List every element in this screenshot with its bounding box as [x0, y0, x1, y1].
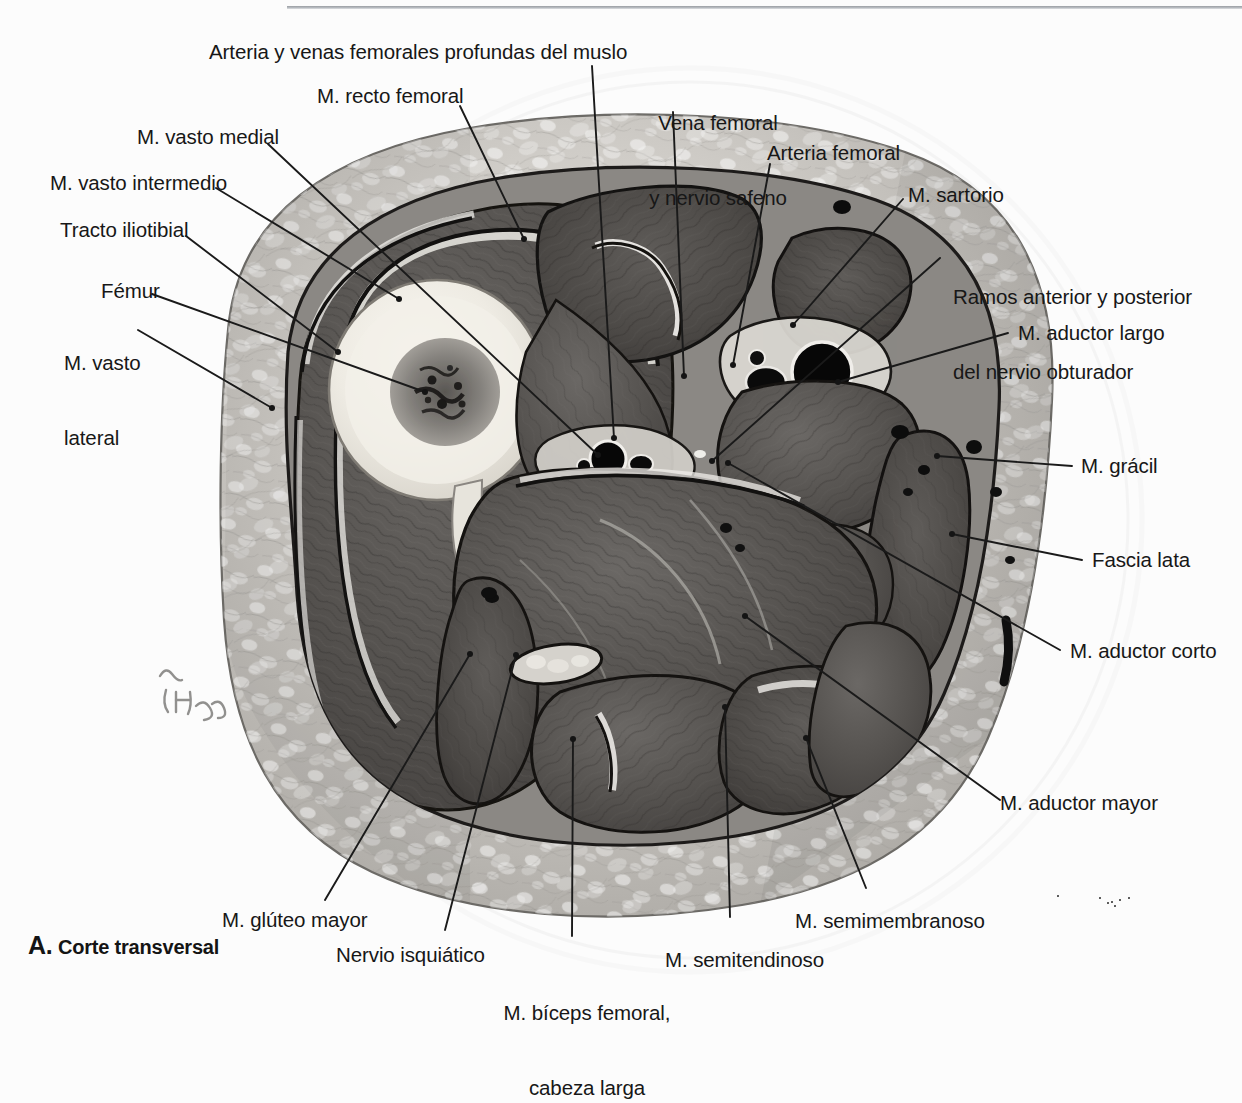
- label-adductor-longus: M. aductor largo: [1018, 320, 1165, 345]
- saphenous-nerve: [749, 350, 765, 366]
- label-biceps-femoris: M. bíceps femoral, cabeza larga: [487, 950, 687, 1103]
- figure-caption-text: Corte transversal: [58, 936, 219, 958]
- label-gluteus-maximus: M. glúteo mayor: [222, 907, 367, 932]
- label-semimembranosus: M. semimembranoso: [795, 908, 985, 933]
- label-femoral-artery: Arteria femoral: [767, 140, 900, 165]
- label-femoral-vein-line2: y nervio safeno: [633, 185, 803, 210]
- label-rectus-femoris: M. recto femoral: [317, 83, 464, 108]
- label-vastus-lateralis-line2: lateral: [64, 425, 141, 450]
- label-obturator-nerve-line2: del nervio obturador: [953, 359, 1192, 384]
- figure-caption: A. Corte transversal: [28, 931, 219, 960]
- label-vastus-lateralis-line1: M. vasto: [64, 350, 141, 375]
- label-biceps-femoris-line2: cabeza larga: [487, 1075, 687, 1100]
- label-adductor-magnus: M. aductor mayor: [1000, 790, 1158, 815]
- label-semitendinosus: M. semitendinoso: [665, 947, 824, 972]
- label-sartorius: M. sartorio: [908, 182, 1004, 207]
- figure-caption-letter: A.: [28, 931, 53, 959]
- label-profunda-femoris: Arteria y venas femorales profundas del …: [209, 39, 627, 64]
- label-vastus-lateralis: M. vasto lateral: [64, 300, 141, 500]
- label-adductor-brevis: M. aductor corto: [1070, 638, 1217, 663]
- label-gracilis: M. grácil: [1081, 453, 1158, 478]
- label-vastus-intermedius: M. vasto intermedio: [50, 170, 227, 195]
- label-fascia-lata: Fascia lata: [1092, 547, 1190, 572]
- label-sciatic-nerve: Nervio isquiático: [336, 942, 485, 967]
- artist-signature: [160, 670, 225, 720]
- deep-compartments: [295, 186, 970, 832]
- label-femoral-vein-line1: Vena femoral: [633, 110, 803, 135]
- label-obturator-nerve-line1: Ramos anterior y posterior: [953, 284, 1192, 309]
- label-biceps-femoris-line1: M. bíceps femoral,: [487, 1000, 687, 1025]
- label-iliotibial-tract: Tracto iliotibial: [60, 217, 189, 242]
- label-vastus-medialis: M. vasto medial: [137, 124, 279, 149]
